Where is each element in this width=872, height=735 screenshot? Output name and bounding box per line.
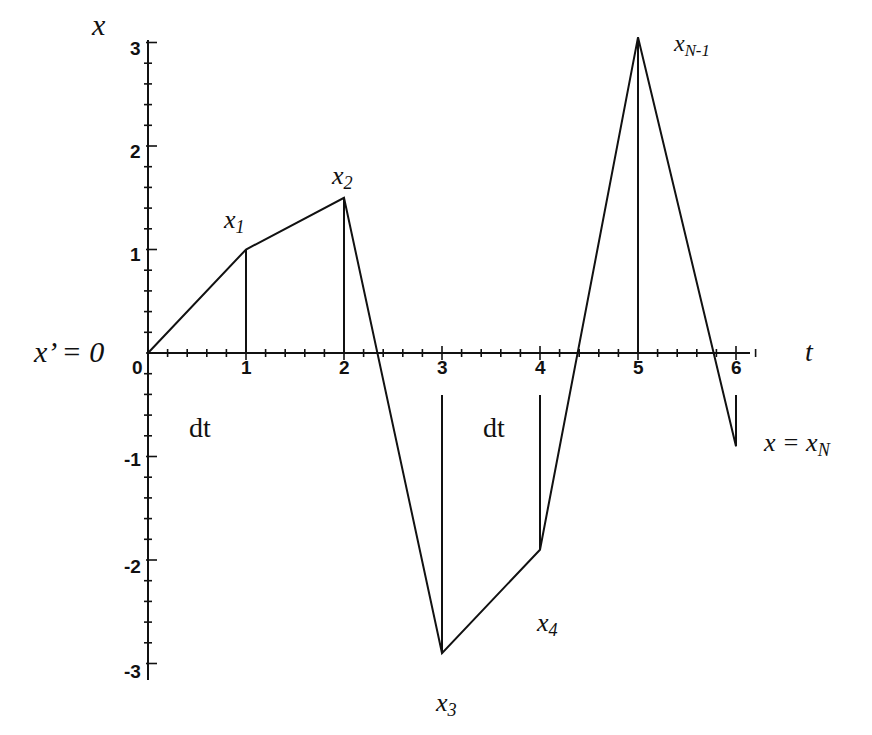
origin-condition-label: x’ = 0 xyxy=(34,335,104,369)
end-condition-subscript: N xyxy=(818,440,830,460)
end-condition-text: x = x xyxy=(764,428,818,457)
origin-condition-text: x’ = 0 xyxy=(34,335,104,368)
drop-lines xyxy=(246,37,736,653)
y-tick-3: 3 xyxy=(130,38,141,60)
y-axis-label: x xyxy=(92,8,105,42)
x2-subscript: 2 xyxy=(344,173,353,193)
x-tick-4: 4 xyxy=(535,357,546,379)
x-tick-2: 2 xyxy=(339,357,350,379)
y-tick-2: 2 xyxy=(130,141,141,163)
dt-label-left: dt xyxy=(189,412,211,444)
y-tick-neg2: -2 xyxy=(124,556,141,578)
x3-subscript: 3 xyxy=(448,700,457,720)
y-tick-neg1: -1 xyxy=(124,449,141,471)
axes xyxy=(148,40,750,680)
x2-text: x xyxy=(332,161,344,190)
end-condition-label: x = xN xyxy=(764,428,830,461)
x-tick-5: 5 xyxy=(633,357,644,379)
point-label-x4: x4 xyxy=(537,608,558,641)
x-axis-label: t xyxy=(805,336,813,368)
x4-text: x xyxy=(537,608,549,637)
dt-label-right: dt xyxy=(483,412,505,444)
y-tick-1: 1 xyxy=(130,244,141,266)
point-label-x3: x3 xyxy=(436,688,457,721)
point-label-x2: x2 xyxy=(332,161,353,194)
xn1-subscript: N-1 xyxy=(685,41,710,60)
x-tick-1: 1 xyxy=(241,357,252,379)
x-tick-3: 3 xyxy=(437,357,448,379)
y-tick-neg3: -3 xyxy=(124,661,141,683)
xn1-text: x xyxy=(674,30,685,56)
x1-text: x xyxy=(224,205,236,234)
point-label-x1: x1 xyxy=(224,205,245,238)
x1-subscript: 1 xyxy=(236,217,245,237)
point-label-xn-1: xN-1 xyxy=(674,30,710,61)
x4-subscript: 4 xyxy=(549,620,558,640)
y-axis-ticks xyxy=(144,43,157,664)
x3-text: x xyxy=(436,688,448,717)
x-tick-6: 6 xyxy=(731,357,742,379)
x-tick-0: 0 xyxy=(132,357,143,379)
